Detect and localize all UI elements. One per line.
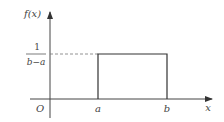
y-axis-label: f(x) (23, 8, 41, 19)
height-numerator: 1 (34, 42, 40, 52)
uniform-pdf-diagram: f(x) 1 b−a O a b x (0, 0, 224, 122)
origin-label: O (36, 103, 44, 114)
x-tick-b: b (164, 103, 170, 114)
x-tick-a: a (95, 103, 101, 114)
pdf-rectangle (98, 54, 167, 99)
x-axis-label: x (205, 102, 211, 113)
height-denominator: b−a (27, 57, 46, 67)
